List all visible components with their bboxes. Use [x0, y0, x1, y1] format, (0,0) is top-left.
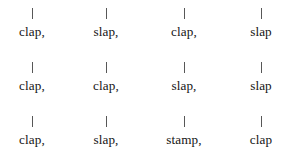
beat-label: slap — [221, 78, 290, 94]
beat-cell: slap — [221, 0, 290, 40]
beat-label: clap, — [66, 78, 146, 94]
beat-row: clap, slap, stamp, clap — [0, 108, 290, 156]
beat-cell: clap, — [0, 0, 72, 40]
beat-tick-icon — [261, 62, 262, 73]
beat-row: clap, clap, slap, slap — [0, 54, 290, 107]
beat-cell: clap — [221, 108, 290, 148]
beat-cell: slap — [221, 54, 290, 94]
beat-label: clap — [221, 132, 290, 148]
beat-cell: clap, — [144, 0, 224, 40]
beat-tick-icon — [106, 116, 107, 127]
beat-cell: clap, — [0, 54, 72, 94]
beat-tick-icon — [261, 116, 262, 127]
beat-tick-icon — [184, 116, 185, 127]
beat-cell: clap, — [66, 54, 146, 94]
beat-cell: slap, — [144, 54, 224, 94]
beat-label: slap, — [66, 132, 146, 148]
beat-tick-icon — [32, 62, 33, 73]
beat-label: clap, — [0, 132, 72, 148]
beat-tick-icon — [184, 62, 185, 73]
beat-label: clap, — [0, 78, 72, 94]
beat-label: slap, — [66, 24, 146, 40]
beat-tick-icon — [32, 116, 33, 127]
beat-tick-icon — [106, 62, 107, 73]
beat-tick-icon — [261, 8, 262, 19]
beat-tick-icon — [32, 8, 33, 19]
beat-tick-icon — [184, 8, 185, 19]
beat-label: stamp, — [144, 132, 224, 148]
rhythm-notation-figure: clap, slap, clap, slap clap, clap, slap, — [0, 0, 290, 156]
beat-label: slap — [221, 24, 290, 40]
beat-label: clap, — [0, 24, 72, 40]
beat-tick-icon — [106, 8, 107, 19]
beat-cell: slap, — [66, 0, 146, 40]
beat-label: clap, — [144, 24, 224, 40]
beat-cell: clap, — [0, 108, 72, 148]
beat-label: slap, — [144, 78, 224, 94]
beat-cell: stamp, — [144, 108, 224, 148]
beat-row: clap, slap, clap, slap — [0, 0, 290, 53]
beat-cell: slap, — [66, 108, 146, 148]
